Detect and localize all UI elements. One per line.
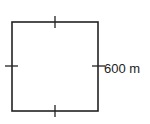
- side-length-label: 600 m: [104, 62, 140, 76]
- square-outline: [12, 22, 98, 111]
